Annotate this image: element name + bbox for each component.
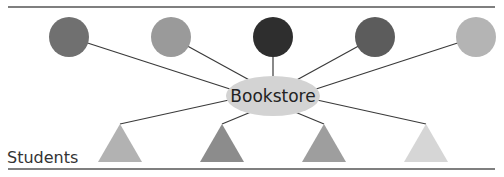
top-node-circle-1 <box>49 17 89 57</box>
bookstore-diagram: Bookstore Students <box>0 0 504 177</box>
top-node-circle-5 <box>456 17 496 57</box>
students-row-label: Students <box>7 148 78 167</box>
top-node-row <box>49 17 496 57</box>
edge-top-5 <box>313 37 476 90</box>
center-node-label: Bookstore <box>230 86 315 106</box>
bottom-node-triangle-1 <box>98 124 142 162</box>
edge-bottom-1 <box>120 100 229 124</box>
bottom-node-triangle-4 <box>404 124 448 162</box>
top-node-circle-4 <box>355 17 395 57</box>
edge-bottom-3 <box>295 112 324 124</box>
bottom-node-row <box>98 124 448 162</box>
edge-bottom-4 <box>317 100 426 124</box>
edge-top-1 <box>69 37 233 90</box>
top-node-circle-2 <box>151 17 191 57</box>
bottom-node-triangle-2 <box>200 124 244 162</box>
edge-bottom-2 <box>222 112 251 124</box>
top-node-circle-3 <box>253 17 293 57</box>
bottom-node-triangle-3 <box>302 124 346 162</box>
